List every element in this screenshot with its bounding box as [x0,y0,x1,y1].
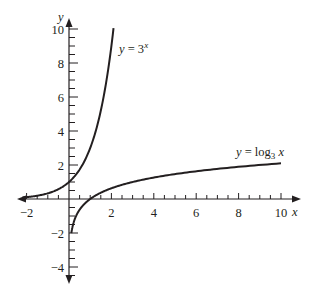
x-tick-label: 10 [275,206,288,220]
x-tick-label: 6 [193,206,199,220]
x-tick-label: 2 [108,206,114,220]
y-tick-label: −2 [51,227,64,241]
exponential-curve [22,28,113,197]
y-tick-label: 10 [52,23,65,37]
x-axis-label: x [291,205,298,219]
y-axis-down-arrow-icon [66,275,73,284]
x-tick-label: 8 [235,206,241,220]
y-tick-label: 2 [58,159,64,173]
x-tick-label: −2 [20,206,33,220]
y-tick-label: 6 [58,91,64,105]
function-graph: −2246810−4−2246810 x y y = 3x y = log3 x [0,0,312,295]
y-axis-label: y [56,10,64,24]
x-tick-label: 4 [151,206,158,220]
y-axis-up-arrow-icon [66,18,73,27]
y-tick-label: 8 [58,57,64,71]
y-tick-label: 4 [58,125,65,139]
y-tick-label: −4 [51,261,65,275]
x-axis-right-arrow-icon [292,196,301,203]
exponential-curve-label: y = 3x [117,40,148,56]
logarithm-curve-label: y = log3 x [234,145,284,161]
